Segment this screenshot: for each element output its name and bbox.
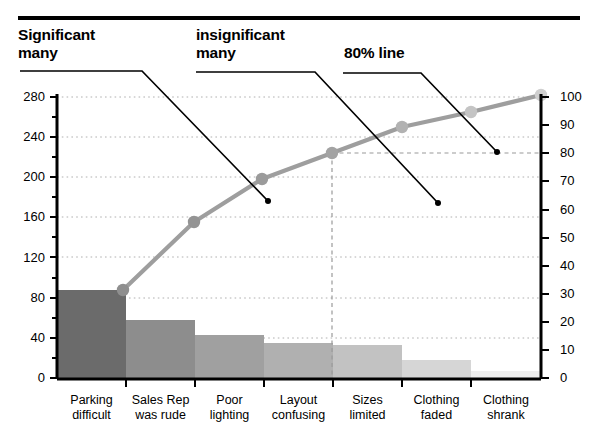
left-tick-160: 160 [5, 209, 45, 224]
category-label-layout-confusing: Layout confusing [264, 393, 333, 422]
gridlines [57, 97, 541, 338]
bar-layout-confusing [264, 343, 333, 378]
marker-clothing-faded [465, 106, 477, 118]
right-tick-100: 100 [560, 89, 597, 104]
bar-parking-difficult [57, 290, 126, 378]
category-label-sales-rep-was-rude: Sales Rep was rude [126, 393, 195, 422]
callout-leaders [20, 71, 500, 206]
right-axis [541, 94, 549, 379]
bar-sizes-limited [333, 345, 402, 378]
left-tick-200: 200 [5, 169, 45, 184]
category-label-clothing-faded: Clothing faded [402, 393, 471, 422]
right-tick-80: 80 [560, 145, 597, 160]
right-tick-90: 90 [560, 117, 597, 132]
leader-significant-many-dot [265, 198, 271, 204]
left-tick-120: 120 [5, 250, 45, 265]
left-tick-0: 0 [5, 370, 45, 385]
annotation-eighty-line: 80% line [344, 44, 404, 62]
left-tick-240: 240 [5, 129, 45, 144]
right-tick-40: 40 [560, 258, 597, 273]
chart-graphics [0, 0, 597, 442]
leader-eighty-line-dot [494, 149, 500, 155]
category-label-sizes-limited: Sizes limited [333, 393, 402, 422]
right-tick-60: 60 [560, 202, 597, 217]
bar-sales-rep-was-rude [126, 320, 195, 378]
left-tick-280: 280 [5, 89, 45, 104]
marker-layout-confusing [326, 147, 338, 159]
category-label-clothing-shrank: Clothing shrank [471, 393, 541, 422]
right-tick-50: 50 [560, 230, 597, 245]
pareto-chart: Significant many insignificant many 80% … [0, 0, 597, 442]
marker-sales-rep-was-rude [188, 216, 200, 228]
right-tick-20: 20 [560, 314, 597, 329]
reference-line-80 [332, 153, 541, 378]
left-axis [50, 94, 57, 379]
bar-clothing-shrank [471, 371, 541, 378]
category-label-poor-lighting: Poor lighting [195, 393, 264, 422]
right-tick-30: 30 [560, 286, 597, 301]
bar-poor-lighting [195, 335, 264, 378]
bar-series [57, 290, 541, 378]
left-tick-40: 40 [5, 330, 45, 345]
right-tick-0: 0 [560, 370, 597, 385]
marker-sizes-limited [396, 121, 408, 133]
left-tick-80: 80 [5, 290, 45, 305]
marker-poor-lighting [256, 173, 268, 185]
leader-insignificant-many-dot [435, 200, 441, 206]
annotation-significant-many: Significant many [18, 26, 95, 62]
bottom-axis [57, 379, 541, 387]
marker-parking-difficult [117, 284, 129, 296]
right-tick-70: 70 [560, 173, 597, 188]
category-label-parking-difficult: Parking difficult [57, 393, 126, 422]
bar-clothing-faded [402, 360, 471, 378]
right-tick-10: 10 [560, 342, 597, 357]
annotation-insignificant-many: insignificant many [196, 26, 285, 62]
